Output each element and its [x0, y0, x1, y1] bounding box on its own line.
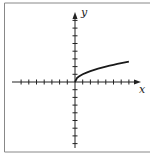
- y-axis-label: y: [80, 6, 88, 19]
- y-axis-arrow-icon: [73, 12, 78, 19]
- x-axis-label: x: [139, 83, 146, 96]
- sqrt-curve: [75, 62, 129, 82]
- function-graph: x y: [0, 0, 150, 157]
